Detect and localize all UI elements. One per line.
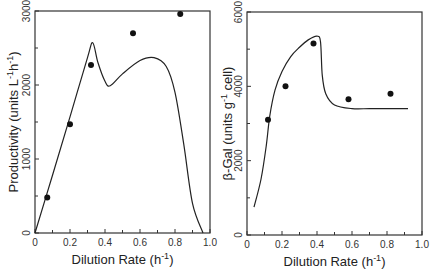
y-tick-label: 2000: [21, 73, 32, 96]
plot-frame: [247, 12, 422, 235]
x-tick-label: 0.4: [98, 237, 112, 248]
x-tick-label: 1.0: [203, 237, 217, 248]
beta-gal-chart: 00.20.40.60.81.00200040006000Dilution Ra…: [219, 0, 429, 269]
x-tick-label: 1.0: [415, 239, 429, 250]
data-point: [311, 41, 317, 47]
model-curve: [254, 36, 408, 207]
data-point: [283, 83, 289, 89]
x-tick-label: 0.8: [380, 239, 394, 250]
x-axis-label: Dilution Rate (h-1): [72, 251, 174, 267]
x-tick-label: 0: [244, 239, 250, 250]
y-tick-label: 6000: [233, 0, 244, 23]
y-tick-label: 3000: [21, 0, 32, 22]
x-tick-label: 0.2: [63, 237, 77, 248]
plot-frame: [35, 11, 210, 233]
y-tick-label: 0: [21, 230, 32, 236]
y-tick-label: 1000: [21, 147, 32, 170]
x-tick-label: 0.6: [133, 237, 147, 248]
model-curve: [35, 43, 203, 233]
x-tick-label: 0.4: [310, 239, 324, 250]
y-axis-label: Productivity (units L-1h-1): [5, 51, 21, 192]
productivity-chart: 00.20.40.60.81.00100020003000Dilution Ra…: [5, 0, 217, 267]
data-point: [130, 30, 136, 36]
chart-figure: 00.20.40.60.81.00100020003000Dilution Ra…: [0, 0, 433, 273]
x-tick-label: 0.6: [345, 239, 359, 250]
data-point: [67, 121, 73, 127]
x-tick-label: 0.8: [168, 237, 182, 248]
data-point: [265, 117, 271, 123]
x-axis-label: Dilution Rate (h-1): [284, 253, 386, 269]
x-tick-label: 0.2: [275, 239, 289, 250]
data-point: [388, 91, 394, 97]
data-point: [44, 194, 50, 200]
data-point: [177, 11, 183, 17]
data-point: [346, 96, 352, 102]
data-point: [88, 62, 94, 68]
y-tick-label: 0: [233, 232, 244, 238]
y-axis-label: β-Gal (units g-1 cell): [219, 67, 235, 181]
x-tick-label: 0: [32, 237, 38, 248]
